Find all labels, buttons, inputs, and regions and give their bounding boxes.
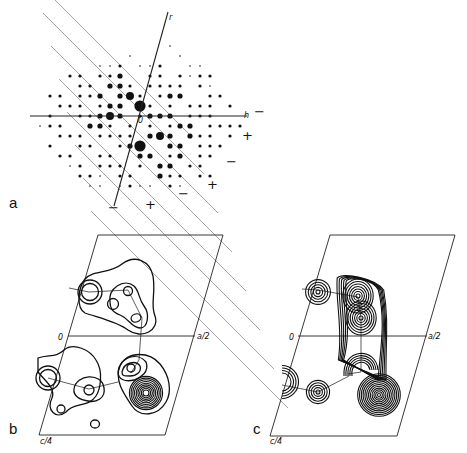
diffraction-spot <box>108 134 111 137</box>
diffraction-spot <box>118 174 121 177</box>
diffraction-spot <box>78 94 81 97</box>
diffraction-spot <box>118 64 121 67</box>
diffraction-spot <box>68 154 71 157</box>
diffraction-spot <box>208 154 211 157</box>
diffraction-spot <box>107 83 112 88</box>
diffraction-spot <box>139 65 141 67</box>
diffraction-spot <box>198 74 201 77</box>
diffraction-spot <box>108 74 111 77</box>
c-quarter-label: c/4 <box>270 437 282 446</box>
diffraction-spot <box>218 94 221 97</box>
density-contour <box>363 379 395 411</box>
diffraction-spot <box>139 185 141 187</box>
diffraction-spot <box>179 55 181 57</box>
diffraction-spot <box>218 124 221 127</box>
density-contour <box>378 394 381 397</box>
panel-b: 0 a/2 c/4 <box>9 235 223 446</box>
diffraction-spot <box>156 132 164 140</box>
diffraction-spot <box>198 144 201 147</box>
diffraction-spot <box>158 94 161 97</box>
diffraction-spot <box>134 100 145 111</box>
diffraction-spot <box>58 134 61 137</box>
diffraction-spot <box>88 84 91 87</box>
diffraction-spot <box>148 124 151 127</box>
diffraction-spot <box>99 175 101 177</box>
diffraction-spot <box>167 143 172 148</box>
origin-label: 0 <box>138 116 143 125</box>
diffraction-spot <box>177 143 182 148</box>
cell-left-edge <box>39 235 98 435</box>
diffraction-spot <box>98 104 101 107</box>
diffraction-spot <box>108 124 111 127</box>
sign-marker-plus: + <box>207 177 218 192</box>
diffraction-spot <box>98 154 101 157</box>
r-axis-label: r <box>169 13 173 22</box>
diffraction-spot <box>187 133 192 138</box>
diffraction-spot <box>148 84 151 87</box>
diffraction-spot <box>168 104 171 107</box>
diffraction-spot <box>208 94 211 97</box>
density-contour <box>313 287 322 296</box>
diffraction-spot <box>209 85 211 87</box>
panel-a: r h 0 − + − + − + − a <box>9 0 288 408</box>
diffraction-spot <box>169 45 171 47</box>
cell-right-edge <box>165 235 223 435</box>
diffraction-spot <box>48 124 51 127</box>
sign-boundary-line <box>75 145 260 330</box>
diffraction-spot <box>189 75 191 77</box>
diffraction-spot <box>168 174 171 177</box>
diffraction-spot <box>78 134 81 137</box>
density-contour <box>138 385 154 401</box>
sign-boundary-line <box>67 112 246 291</box>
diffraction-spot <box>188 104 191 107</box>
density-contour <box>306 280 331 305</box>
diffraction-spot <box>78 164 81 167</box>
diffraction-spot <box>99 185 101 187</box>
a-half-label: a/2 <box>197 332 210 341</box>
dense-peak-contours <box>129 376 162 409</box>
diffraction-spot <box>208 104 211 107</box>
diffraction-spot <box>198 104 201 107</box>
diffraction-spot <box>97 123 102 128</box>
a-half-label: a/2 <box>428 332 441 341</box>
diffraction-spot <box>128 174 131 177</box>
diffraction-spot <box>118 164 121 167</box>
diffraction-spot <box>208 144 211 147</box>
diffraction-spot <box>198 174 201 177</box>
density-contours <box>282 276 400 417</box>
diffraction-spot <box>157 163 162 168</box>
diffraction-spot <box>208 134 211 137</box>
origin-label: 0 <box>289 333 294 342</box>
panel-label-c: c <box>253 420 261 437</box>
diffraction-spot <box>177 93 182 98</box>
diffraction-spot <box>78 84 81 87</box>
diffraction-spot <box>78 74 81 77</box>
diffraction-spot <box>48 94 51 97</box>
diffraction-spot <box>98 74 101 77</box>
lower-right-density-contours <box>118 355 169 414</box>
diffraction-spot <box>58 104 61 107</box>
sign-marker-minus: − <box>178 186 189 201</box>
diffraction-spot <box>189 65 191 67</box>
diffraction-spot <box>58 94 61 97</box>
panel-label-b: b <box>9 420 17 437</box>
diffraction-spot <box>177 123 182 128</box>
h-axis-label: h <box>244 111 249 120</box>
diffraction-spot <box>199 65 201 67</box>
diffraction-spot <box>228 134 231 137</box>
diffraction-spot <box>158 74 161 77</box>
diffraction-spot <box>147 133 152 138</box>
density-contour <box>365 381 393 409</box>
diffraction-spot <box>148 104 151 107</box>
diffraction-spot <box>58 154 61 157</box>
diffraction-spot <box>68 134 71 137</box>
diffraction-spot <box>78 144 81 147</box>
diffraction-spot <box>68 104 71 107</box>
diffraction-spot <box>99 65 101 67</box>
diffraction-spot <box>188 164 191 167</box>
diffraction-spot <box>147 153 152 158</box>
cell-right-edge <box>397 235 455 436</box>
diffraction-spot <box>138 94 141 97</box>
density-contour <box>131 378 161 408</box>
diffraction-spot <box>157 173 162 178</box>
